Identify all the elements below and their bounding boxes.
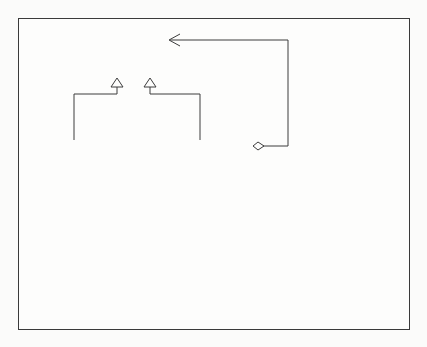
connector-lines	[0, 0, 427, 347]
